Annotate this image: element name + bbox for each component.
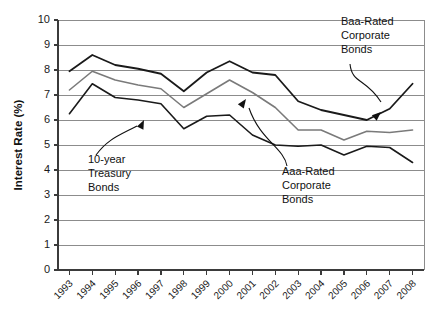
annotations-group: Baa-RatedCorporateBonds10-yearTreasuryBo… bbox=[88, 15, 394, 205]
y-tick-label: 6 bbox=[44, 113, 50, 125]
x-tick-label: 2006 bbox=[349, 277, 373, 301]
annotation-label-treasury: 10-yearTreasuryBonds bbox=[88, 153, 131, 193]
x-tick-label: 1993 bbox=[51, 277, 75, 301]
y-tick-label: 5 bbox=[44, 138, 50, 150]
annotation-label-baa: Baa-RatedCorporateBonds bbox=[341, 15, 394, 55]
annotation-line: Bonds bbox=[282, 193, 314, 205]
y-tick-label: 9 bbox=[44, 38, 50, 50]
x-tick-label: 2008 bbox=[394, 277, 418, 301]
gridlines-group bbox=[58, 20, 424, 270]
y-tick-label: 8 bbox=[44, 63, 50, 75]
series-line-10-year-treasury-bonds bbox=[69, 84, 412, 163]
annotation-arrowhead-baa bbox=[372, 112, 381, 121]
x-tick-label: 2000 bbox=[211, 277, 235, 301]
y-tick-label: 2 bbox=[44, 213, 50, 225]
ytick-labels-group: 012345678910 bbox=[38, 13, 58, 275]
annotation-arrowhead-treasury bbox=[137, 120, 144, 130]
y-tick-label: 3 bbox=[44, 188, 50, 200]
annotation-line: Aaa-Rated bbox=[282, 165, 335, 177]
x-tick-label: 2002 bbox=[257, 277, 281, 301]
axis-title-group: Interest Rate (%) bbox=[12, 99, 24, 190]
interest-rate-chart-figure: 012345678910 199319941995199619971998199… bbox=[0, 0, 437, 319]
y-tick-label: 10 bbox=[38, 13, 50, 25]
y-tick-label: 7 bbox=[44, 88, 50, 100]
annotation-label-aaa: Aaa-RatedCorporateBonds bbox=[282, 165, 335, 205]
annotation-line: Baa-Rated bbox=[341, 15, 394, 27]
annotation-leader-aaa bbox=[249, 108, 287, 166]
x-tick-label: 1998 bbox=[166, 277, 190, 301]
y-axis-title: Interest Rate (%) bbox=[12, 99, 24, 190]
x-tick-label: 2001 bbox=[234, 277, 258, 301]
x-tick-label: 1994 bbox=[74, 277, 98, 301]
xtick-labels-group: 1993199419951996199719981999200020012002… bbox=[51, 270, 418, 301]
annotation-leader-treasury bbox=[96, 126, 137, 155]
annotation-arrowhead-aaa bbox=[238, 99, 246, 108]
x-tick-label: 2005 bbox=[326, 277, 350, 301]
x-tick-label: 2007 bbox=[372, 277, 396, 301]
annotation-line: Corporate bbox=[282, 179, 331, 191]
x-tick-label: 1995 bbox=[97, 277, 121, 301]
chart-canvas: 012345678910 199319941995199619971998199… bbox=[0, 0, 437, 319]
x-tick-label: 1997 bbox=[143, 277, 167, 301]
x-tick-label: 1996 bbox=[120, 277, 144, 301]
x-tick-label: 2003 bbox=[280, 277, 304, 301]
series-line-baa-rated-corporate-bonds bbox=[69, 55, 412, 120]
y-tick-label: 4 bbox=[44, 163, 50, 175]
x-tick-label: 1999 bbox=[189, 277, 213, 301]
y-tick-label: 0 bbox=[44, 263, 50, 275]
annotation-line: Bonds bbox=[88, 181, 120, 193]
annotation-line: Bonds bbox=[341, 43, 373, 55]
annotation-line: Treasury bbox=[88, 167, 131, 179]
x-tick-label: 2004 bbox=[303, 277, 327, 301]
y-tick-label: 1 bbox=[44, 238, 50, 250]
annotation-line: Corporate bbox=[341, 29, 390, 41]
annotation-line: 10-year bbox=[88, 153, 126, 165]
series-group bbox=[69, 55, 412, 163]
